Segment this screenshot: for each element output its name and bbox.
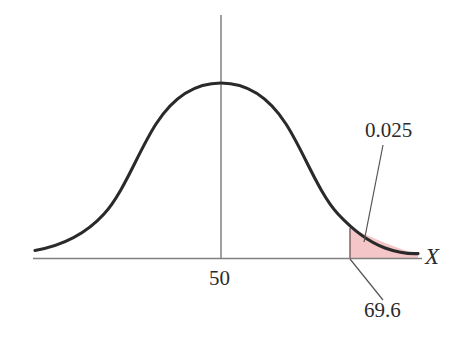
x-axis-label: X bbox=[425, 245, 439, 268]
mean-label: 50 bbox=[209, 268, 230, 289]
critical-value-label: 69.6 bbox=[364, 300, 401, 321]
figure-background bbox=[0, 0, 472, 338]
tail-area-label: 0.025 bbox=[365, 120, 412, 141]
normal-distribution-figure bbox=[0, 0, 472, 338]
